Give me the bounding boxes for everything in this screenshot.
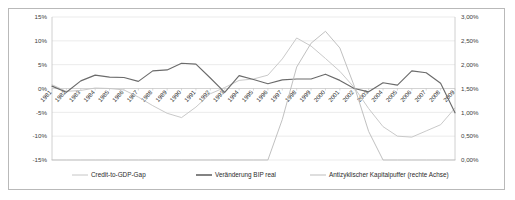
line-chart: 15%10%5%0%-5%-10%-15% 3,00%2,50%2,00%1,5… (0, 0, 515, 200)
x-axis-tick-label: 2002 (342, 89, 356, 103)
legend-label-0: Credit-to-GDP-Gap (91, 171, 146, 179)
y-axis-right-tick-label: 1,00% (461, 109, 479, 116)
x-axis-tick-label: 1994 (226, 89, 240, 103)
legend-label-1: Veränderung BIP real (215, 171, 276, 179)
y-axis-left-tick-label: 5% (38, 61, 47, 68)
x-axis-tick-label: 1986 (111, 89, 125, 103)
x-axis-tick-label: 1992 (198, 89, 212, 103)
x-axis-tick-label: 1988 (140, 89, 154, 103)
y-axis-right-ticks: 3,00%2,50%2,00%1,50%1,00%0,50%0,00% (461, 13, 479, 163)
series-line-ver-nderung-bip-real (52, 63, 455, 113)
x-axis-tick-label: 1991 (183, 89, 197, 103)
x-axis-tick-label: 2006 (399, 89, 413, 103)
x-axis-tick-label: 1984 (83, 89, 97, 103)
y-axis-right-tick-label: 2,50% (461, 37, 479, 44)
y-axis-right-tick-label: 0,00% (461, 156, 479, 163)
x-axis-tick-label: 2000 (313, 89, 327, 103)
x-axis-tick-label: 1998 (284, 89, 298, 103)
x-axis-tick-label: 2007 (414, 89, 428, 103)
y-axis-left-tick-label: -10% (33, 132, 48, 139)
x-axis-tick-label: 2005 (385, 89, 399, 103)
x-axis-tick-label: 2004 (370, 89, 384, 103)
y-axis-right-tick-label: 1,50% (461, 85, 479, 92)
y-axis-left-tick-label: 15% (35, 13, 48, 20)
legend-label-2: Antizyklischer Kapitalpuffer (rechte Ach… (329, 171, 449, 179)
y-axis-right-tick-label: 0,50% (461, 132, 479, 139)
x-axis-ticks: 1981198219831984198519861987198819891990… (39, 89, 456, 104)
y-axis-left-tick-label: 10% (35, 37, 48, 44)
x-axis-tick-label: 1999 (298, 89, 312, 103)
y-axis-left-tick-label: -5% (36, 109, 48, 116)
x-axis-tick-label: 1985 (97, 89, 111, 103)
x-axis-tick-label: 1987 (126, 89, 140, 103)
x-axis-tick-label: 1989 (154, 89, 168, 103)
chart-screenshot: 15%10%5%0%-5%-10%-15% 3,00%2,50%2,00%1,5… (0, 0, 515, 200)
x-axis-tick-label: 1996 (255, 89, 269, 103)
x-axis-tick-label: 1997 (270, 89, 284, 103)
y-axis-right-tick-label: 3,00% (461, 13, 479, 20)
x-axis-tick-label: 2001 (327, 89, 341, 103)
y-axis-left-ticks: 15%10%5%0%-5%-10%-15% (33, 13, 48, 163)
x-axis-tick-label: 1995 (241, 89, 255, 103)
y-axis-left-tick-label: -15% (33, 156, 48, 163)
y-axis-right-tick-label: 2,00% (461, 61, 479, 68)
series-line-credit-to-gdp-gap (52, 38, 455, 137)
chart-legend: Credit-to-GDP-GapVeränderung BIP realAnt… (72, 171, 449, 179)
x-axis-tick-label: 2008 (428, 89, 442, 103)
x-axis-tick-label: 1990 (169, 89, 183, 103)
